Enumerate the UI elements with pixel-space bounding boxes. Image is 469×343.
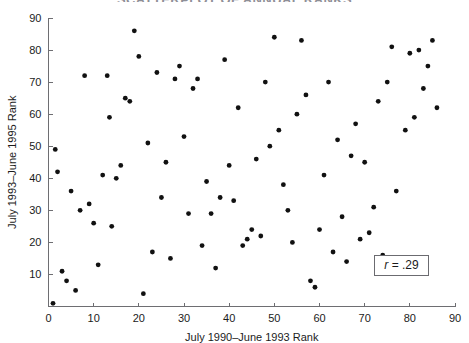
y-tick-label: 70	[29, 76, 41, 88]
data-point	[177, 64, 182, 69]
data-point	[353, 121, 358, 126]
plot-canvas: 0102030405060708090102030405060708090Jul…	[0, 0, 469, 343]
y-axis-title: July 1993–June 1995 Rank	[6, 95, 18, 229]
y-tick-label: 60	[29, 108, 41, 120]
data-point	[60, 269, 65, 274]
data-point	[231, 198, 236, 203]
y-tick-label: 80	[29, 44, 41, 56]
data-point	[145, 141, 150, 146]
y-tick-label: 10	[29, 268, 41, 280]
data-point	[267, 144, 272, 149]
data-point	[51, 301, 56, 306]
data-point	[141, 291, 146, 296]
data-point	[191, 86, 196, 91]
data-point	[69, 189, 74, 194]
data-point	[263, 80, 268, 85]
data-point	[155, 70, 160, 75]
x-axis-title: July 1990–June 1993 Rank	[185, 331, 319, 343]
data-point	[100, 173, 105, 178]
data-point	[118, 163, 123, 168]
data-point	[407, 51, 412, 56]
x-tick-label: 20	[133, 312, 145, 324]
data-point	[322, 173, 327, 178]
data-point	[272, 35, 277, 40]
data-point	[403, 128, 408, 133]
data-point	[82, 73, 87, 78]
data-point	[173, 77, 178, 82]
r-value-text: = .29	[388, 258, 418, 272]
y-tick-label: 50	[29, 140, 41, 152]
x-tick-label: 30	[178, 312, 190, 324]
data-point	[435, 105, 440, 110]
data-point	[276, 128, 281, 133]
data-point	[53, 147, 58, 152]
data-point	[281, 182, 286, 187]
x-tick-label: 10	[88, 312, 100, 324]
correlation-annotation-box: r = .29	[374, 255, 428, 276]
x-tick-label: 70	[359, 312, 371, 324]
y-tick-label: 90	[29, 12, 41, 24]
data-point	[164, 160, 169, 165]
data-point	[227, 163, 232, 168]
data-point	[376, 99, 381, 104]
data-point	[371, 205, 376, 210]
data-point	[218, 195, 223, 200]
data-point	[107, 115, 112, 120]
data-point	[168, 256, 173, 261]
data-point	[340, 214, 345, 219]
data-point	[209, 211, 214, 216]
data-point	[304, 93, 309, 98]
data-point	[317, 227, 322, 232]
data-point	[182, 134, 187, 139]
data-point	[412, 115, 417, 120]
data-point	[200, 243, 205, 248]
x-tick-label: 50	[268, 312, 280, 324]
data-point	[105, 73, 110, 78]
data-point	[195, 77, 200, 82]
data-point	[159, 195, 164, 200]
data-point	[55, 169, 60, 174]
data-point	[136, 54, 141, 59]
data-point	[150, 250, 155, 255]
data-point	[285, 208, 290, 213]
data-point	[313, 285, 318, 290]
data-point	[335, 137, 340, 142]
x-tick-label: 80	[404, 312, 416, 324]
y-tick-label: 20	[29, 236, 41, 248]
data-point	[64, 278, 69, 283]
data-point	[204, 179, 209, 184]
x-tick-label: 90	[449, 312, 461, 324]
data-point	[87, 202, 92, 207]
data-point	[73, 288, 78, 293]
data-point	[78, 208, 83, 213]
data-point	[299, 38, 304, 43]
data-point	[258, 234, 263, 239]
x-tick-label: 60	[313, 312, 325, 324]
data-point	[245, 237, 250, 242]
data-point	[394, 189, 399, 194]
data-point	[213, 266, 218, 271]
data-point	[240, 243, 245, 248]
data-point	[362, 160, 367, 165]
data-point	[254, 157, 259, 162]
y-tick-label: 40	[29, 172, 41, 184]
scatter-plot-figure: SCATTERPLOT OF ANNUAL RANKS 010203040506…	[0, 0, 469, 343]
data-point	[127, 99, 132, 104]
data-point	[109, 224, 114, 229]
data-point	[123, 96, 128, 101]
data-point	[91, 221, 96, 226]
data-point	[367, 230, 372, 235]
data-point	[186, 211, 191, 216]
data-point	[385, 80, 390, 85]
data-point	[421, 86, 426, 91]
data-point	[358, 237, 363, 242]
data-point	[236, 105, 241, 110]
data-point	[416, 48, 421, 53]
x-tick-label: 0	[45, 312, 51, 324]
data-point	[249, 227, 254, 232]
data-point	[132, 28, 137, 33]
data-point	[430, 38, 435, 43]
data-point	[295, 112, 300, 117]
data-point	[426, 64, 431, 69]
data-point	[389, 44, 394, 49]
